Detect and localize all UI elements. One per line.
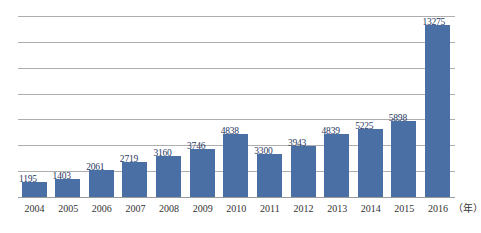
- x-axis-tick-2011: 2011: [253, 202, 286, 215]
- axis-unit-label: （年）: [453, 202, 481, 215]
- bar-group: 5898: [388, 16, 421, 197]
- axis-baseline: [18, 197, 455, 198]
- x-axis-labels: （年） 200420052006200720082009201020112012…: [18, 202, 455, 222]
- bar-group: 5225: [354, 16, 387, 197]
- bar-group: 1403: [52, 16, 85, 197]
- bar[interactable]: [156, 156, 181, 197]
- bars-layer: 1195140320612719316037464838330039434839…: [18, 16, 455, 197]
- bar-value-label: 4838: [221, 126, 239, 136]
- bar-value-label: 2719: [120, 154, 138, 164]
- bar-value-label: 2061: [86, 162, 104, 172]
- x-axis-tick-2010: 2010: [220, 202, 253, 215]
- bar-value-label: 5225: [355, 121, 373, 131]
- bar-group: 4839: [321, 16, 354, 197]
- bar-value-label: 1195: [19, 174, 37, 184]
- x-axis-tick-2012: 2012: [287, 202, 320, 215]
- bar-group: 13275: [421, 16, 454, 197]
- bar[interactable]: [291, 146, 316, 197]
- bar-value-label: 3160: [153, 148, 171, 158]
- bar-value-label: 3943: [288, 138, 306, 148]
- bar[interactable]: [122, 162, 147, 197]
- bar-value-label: 13275: [422, 17, 445, 27]
- bar-group: 2719: [119, 16, 152, 197]
- bar-value-label: 3746: [187, 141, 205, 151]
- x-axis-tick-2016: 2016: [421, 202, 454, 215]
- bar-value-label: 4839: [322, 126, 340, 136]
- bar[interactable]: [190, 149, 215, 197]
- bar[interactable]: [55, 179, 80, 197]
- bar-value-label: 3300: [254, 146, 272, 156]
- bar-group: 3746: [186, 16, 219, 197]
- bar[interactable]: [223, 134, 248, 197]
- x-axis-tick-2015: 2015: [388, 202, 421, 215]
- bar-group: 2061: [85, 16, 118, 197]
- bar[interactable]: [324, 134, 349, 197]
- bar-group: 3943: [287, 16, 320, 197]
- x-axis-tick-2013: 2013: [321, 202, 354, 215]
- bar[interactable]: [89, 170, 114, 197]
- x-axis-tick-2009: 2009: [186, 202, 219, 215]
- bar-value-label: 5898: [389, 113, 407, 123]
- bar-value-label: 1403: [53, 171, 71, 181]
- x-axis-tick-2004: 2004: [18, 202, 51, 215]
- bar[interactable]: [257, 154, 282, 197]
- bar[interactable]: [22, 182, 47, 197]
- bar[interactable]: [358, 129, 383, 197]
- bar-group: 3160: [152, 16, 185, 197]
- x-axis-tick-2014: 2014: [354, 202, 387, 215]
- x-axis-tick-2008: 2008: [152, 202, 185, 215]
- bar-group: 1195: [18, 16, 51, 197]
- bar[interactable]: [391, 121, 416, 197]
- bar-group: 4838: [220, 16, 253, 197]
- x-axis-tick-2007: 2007: [119, 202, 152, 215]
- x-axis-tick-2006: 2006: [85, 202, 118, 215]
- bar[interactable]: [425, 25, 450, 197]
- x-axis-tick-2005: 2005: [52, 202, 85, 215]
- bar-group: 3300: [253, 16, 286, 197]
